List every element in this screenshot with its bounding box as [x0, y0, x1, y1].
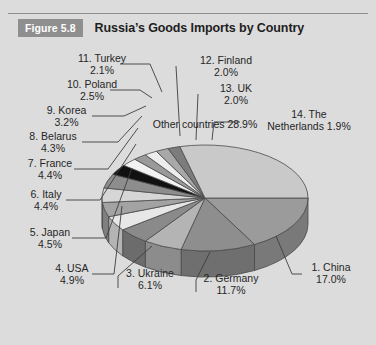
header-rule	[8, 13, 368, 14]
figure-container: Figure 5.8 Russia’s Goods Imports by Cou…	[0, 0, 376, 345]
slice-label-germany: 2. Germany 11.7%	[188, 272, 274, 296]
slice-label-uk: 13. UK 2.0%	[196, 82, 276, 106]
slice-label-turkey: 11. Turkey 2.1%	[46, 52, 158, 76]
slice-label-italy: 6. Italy 4.4%	[0, 188, 92, 212]
slice-label-poland: 10. Poland 2.5%	[36, 78, 148, 102]
chart-stage: Other countries 28.9% 11. Turkey 2.1% 10…	[0, 40, 376, 345]
slice-label-belarus: 8. Belarus 4.3%	[0, 130, 106, 154]
slice-label-usa: 4. USA 4.9%	[26, 262, 118, 286]
figure-number-badge: Figure 5.8	[18, 19, 83, 37]
pie-top-slices	[102, 145, 308, 251]
slice-label-japan: 5. Japan 4.5%	[2, 226, 98, 250]
slice-label-other-countries: Other countries 28.9%	[153, 118, 258, 131]
slice-label-netherlands: 14. The Netherlands 1.9%	[244, 108, 374, 132]
slice-label-ukraine: 3. Ukraine 6.1%	[111, 267, 189, 291]
slice-label-korea: 9. Korea 3.2%	[14, 104, 119, 128]
slice-label-finland: 12. Finland 2.0%	[180, 54, 272, 78]
figure-header: Figure 5.8 Russia’s Goods Imports by Cou…	[18, 19, 304, 37]
page-title: Russia’s Goods Imports by Country	[95, 21, 304, 35]
slice-label-china: 1. China 17.0%	[294, 261, 368, 285]
slice-label-france: 7. France 4.4%	[0, 157, 100, 181]
